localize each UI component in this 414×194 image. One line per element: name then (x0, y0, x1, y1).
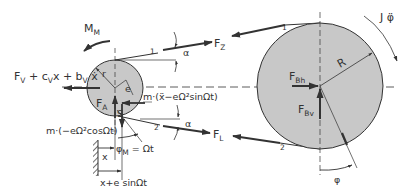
phi-m-arc-arrow (118, 134, 138, 138)
lower-belt-marker-right: 2 (280, 143, 285, 152)
x-label: x (102, 151, 108, 162)
alpha-upper-label: α (183, 47, 189, 58)
fz-right-arrow (232, 25, 285, 36)
large-pulley: R FBh FBv φ (257, 12, 383, 185)
eccentricity-e-label: e (125, 83, 131, 94)
x-total-label: x+e sinΩt (100, 177, 147, 188)
fz-left-label: FZ (214, 37, 225, 52)
moment-arrow-icon (84, 41, 110, 51)
phi-label: φ (334, 174, 340, 185)
alpha-lower-label: α (185, 118, 191, 129)
inertia-label: J φ̈ (379, 11, 394, 24)
upper-belt-marker: 1 (150, 47, 155, 56)
spring-force-label: FV + cVx + bV ẋ (14, 70, 98, 85)
inertia-v-label: m·(−eΩ²cosΩt) (46, 125, 118, 136)
radius-r-label: r (102, 68, 106, 79)
wall-hatch (93, 140, 98, 176)
fl-left-label: FL (213, 128, 224, 143)
belt-drive-diagram: r e FA S MM FV + cVx + bV ẋ m·(ẍ−eΩ²sinΩ… (0, 0, 414, 194)
phi-m-label: φM = Ωt (116, 143, 154, 157)
phi-arc-arrow (320, 165, 352, 170)
moment-label: MM (84, 22, 100, 37)
upper-belt-marker-right: 1 (282, 23, 287, 32)
inertia-h-label: m·(ẍ−eΩ²sinΩt) (143, 91, 218, 102)
lower-belt-marker: 2 (154, 123, 159, 132)
motor-moment: MM (84, 22, 110, 51)
fl-right-arrow (233, 136, 280, 143)
